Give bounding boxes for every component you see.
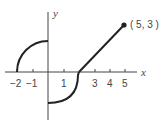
point-label: ( 5, 3 ) bbox=[130, 19, 159, 30]
function-graph: y x ( 5, 3 ) −2 −1 1 3 4 5 bbox=[0, 0, 162, 125]
tick-label: 3 bbox=[92, 78, 98, 89]
x-axis-label: x bbox=[140, 66, 146, 78]
endpoint-dot bbox=[121, 22, 126, 27]
tick-label: 1 bbox=[61, 78, 67, 89]
tick-label: −2 bbox=[10, 78, 22, 89]
y-axis-label: y bbox=[52, 7, 58, 19]
tick-label: 5 bbox=[122, 78, 128, 89]
tick-label: −1 bbox=[26, 78, 38, 89]
tick-label: 4 bbox=[107, 78, 113, 89]
line-segment bbox=[79, 25, 124, 72]
upper-left-arc bbox=[17, 41, 48, 72]
